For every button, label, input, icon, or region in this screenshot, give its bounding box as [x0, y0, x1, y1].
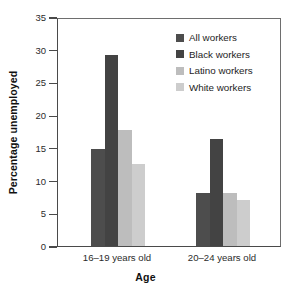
legend-item-label: Black workers	[189, 49, 250, 60]
legend-item: All workers	[176, 30, 253, 45]
y-axis-tick-label: 15	[22, 144, 46, 154]
legend-item: Latino workers	[176, 63, 253, 78]
legend-swatch-icon	[176, 34, 184, 42]
bar	[118, 130, 132, 246]
legend-swatch-icon	[176, 50, 184, 58]
bar	[223, 193, 237, 246]
y-axis-tick	[49, 83, 57, 84]
x-axis-tick-label: 16–19 years old	[67, 252, 167, 263]
legend-swatch-icon	[176, 83, 184, 91]
y-axis-tick-label: 30	[22, 46, 46, 56]
y-axis-tick	[49, 148, 57, 149]
y-axis-tick-label: 0	[22, 242, 46, 252]
legend-swatch-icon	[176, 67, 184, 75]
bar	[237, 200, 251, 246]
legend-item: Black workers	[176, 47, 253, 62]
x-axis-title: Age	[0, 271, 291, 283]
y-axis-tick	[49, 246, 57, 247]
legend-item-label: White workers	[189, 82, 251, 93]
y-axis-tick-label: 20	[22, 111, 46, 121]
legend: All workersBlack workersLatino workersWh…	[176, 30, 253, 96]
y-axis-tick	[49, 17, 57, 18]
legend-item-label: Latino workers	[189, 65, 253, 76]
bar	[210, 139, 224, 246]
y-axis-tick-label: 5	[22, 209, 46, 219]
legend-item: White workers	[176, 80, 253, 95]
y-axis-tick-label: 25	[22, 78, 46, 88]
bar-chart-figure: Percentage unemployed 05101520253035 All…	[0, 0, 291, 293]
x-axis-tick-label: 20–24 years old	[172, 252, 272, 263]
y-axis-tick-label: 10	[22, 177, 46, 187]
bar	[196, 193, 210, 246]
y-axis-tick	[49, 116, 57, 117]
y-axis-tick-label: 35	[22, 13, 46, 23]
legend-item-label: All workers	[189, 32, 237, 43]
y-axis-title: Percentage unemployed	[4, 18, 22, 247]
y-axis-tick	[49, 214, 57, 215]
bar	[132, 164, 146, 246]
bar	[91, 149, 105, 246]
plot-area: All workersBlack workersLatino workersWh…	[57, 18, 281, 247]
bar	[105, 55, 119, 246]
y-axis-tick	[49, 181, 57, 182]
y-axis-tick	[49, 50, 57, 51]
